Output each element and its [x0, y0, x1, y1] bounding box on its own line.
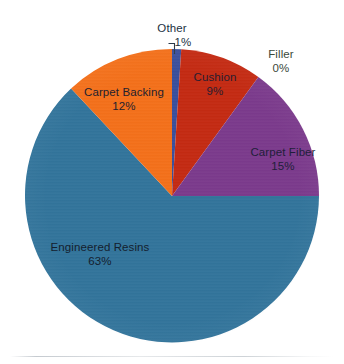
- scan-artifact-line: [10, 356, 334, 357]
- pie-chart-svg: [0, 0, 344, 364]
- pie-chart: Other 1% Filler 0% Cushion 9% Carpet Fib…: [0, 0, 344, 364]
- pie-slices: [25, 49, 319, 342]
